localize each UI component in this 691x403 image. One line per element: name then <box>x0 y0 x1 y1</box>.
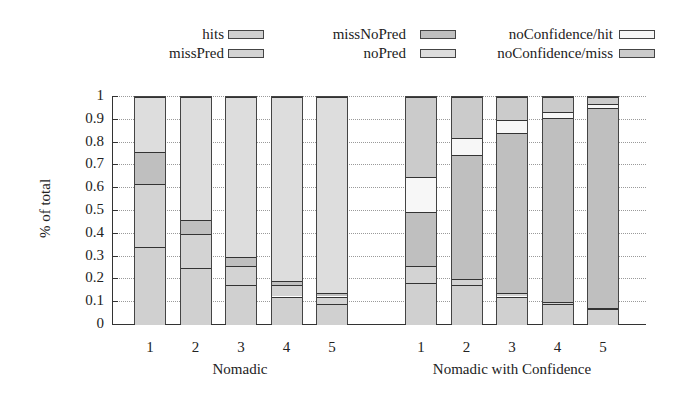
y-axis <box>112 96 113 324</box>
segment-missPred <box>452 279 482 285</box>
segment-missNoPred <box>543 118 573 303</box>
segment-missNoPred <box>317 293 347 296</box>
segment-missNoPred <box>272 281 302 286</box>
segment-noPred <box>226 97 256 257</box>
y-tick-label: 1 <box>74 88 104 103</box>
segment-hits <box>452 285 482 325</box>
segment-noPred <box>317 97 347 293</box>
segment-noConfidence-miss <box>406 97 436 177</box>
stacked-bar-chart: hits missNoPred noConfidence/hit missPre… <box>0 0 691 403</box>
bar-nomadic-confidence-4 <box>542 96 574 324</box>
segment-noConfidence-miss <box>588 97 618 104</box>
segment-hits <box>317 304 347 325</box>
segment-hits <box>272 297 302 326</box>
segment-hits <box>181 268 211 325</box>
y-tick-label: 0 <box>74 316 104 331</box>
legend-swatch-missPred <box>228 49 264 58</box>
segment-missPred <box>181 234 211 268</box>
y-tick-label: 0.3 <box>74 248 104 263</box>
legend-swatch-hits <box>228 30 264 39</box>
segment-missNoPred <box>181 220 211 234</box>
y-axis-title: % of total <box>37 169 54 249</box>
x-tick-label: 4 <box>277 340 297 355</box>
legend-swatch-noConfidence-hit <box>619 30 655 39</box>
legend-label-noPred: noPred <box>364 44 407 62</box>
segment-noPred <box>272 97 302 281</box>
y-tick-label: 0.7 <box>74 156 104 171</box>
segment-hits <box>588 309 618 325</box>
bar-nomadic-2 <box>180 96 212 324</box>
x-tick-label: 2 <box>457 340 477 355</box>
x-tick-label: 1 <box>140 340 160 355</box>
y-tick-label: 0.4 <box>74 225 104 240</box>
bar-nomadic-confidence-3 <box>496 96 528 324</box>
x-tick-label: 1 <box>411 340 431 355</box>
x-tick-label: 5 <box>322 340 342 355</box>
segment-hits <box>135 247 165 325</box>
bar-nomadic-4 <box>271 96 303 324</box>
segment-hits <box>226 285 256 325</box>
y-tick-label: 0.9 <box>74 111 104 126</box>
legend-label-missPred: missPred <box>169 44 224 62</box>
segment-missPred <box>406 266 436 283</box>
segment-missPred <box>543 302 573 304</box>
segment-missPred <box>497 293 527 296</box>
segment-missNoPred <box>135 152 165 184</box>
segment-missPred <box>588 308 618 310</box>
segment-hits <box>543 304 573 325</box>
segment-noConfidence-miss <box>452 97 482 138</box>
legend-swatch-noConfidence-miss <box>619 49 655 58</box>
x-tick-label: 3 <box>231 340 251 355</box>
y-tick-label: 0.5 <box>74 202 104 217</box>
legend-swatch-missNoPred <box>420 30 456 39</box>
segment-hits <box>406 283 436 325</box>
bar-nomadic-5 <box>316 96 348 324</box>
segment-missPred <box>272 285 302 296</box>
segment-missPred <box>135 184 165 248</box>
bar-nomadic-confidence-5 <box>587 96 619 324</box>
bar-nomadic-1 <box>134 96 166 324</box>
segment-noConfidence-hit <box>543 112 573 118</box>
y-tick-label: 0.2 <box>74 270 104 285</box>
segment-hits <box>497 297 527 326</box>
segment-missNoPred <box>452 155 482 279</box>
y-tick-label: 0.8 <box>74 134 104 149</box>
segment-missPred <box>226 266 256 285</box>
group-label-nomadic: Nomadic <box>180 362 300 377</box>
segment-missNoPred <box>588 108 618 308</box>
legend-label-missNoPred: missNoPred <box>333 25 406 43</box>
y-tick-label: 0.6 <box>74 179 104 194</box>
legend-swatch-noPred <box>420 49 456 58</box>
segment-missNoPred <box>497 133 527 293</box>
y-tick-label: 0.1 <box>74 293 104 308</box>
segment-missPred <box>317 297 347 305</box>
segment-noConfidence-hit <box>452 138 482 155</box>
legend-label-hits: hits <box>202 25 224 43</box>
x-tick-label: 5 <box>593 340 613 355</box>
segment-noPred <box>181 97 211 220</box>
segment-missNoPred <box>226 257 256 266</box>
segment-noConfidence-miss <box>497 97 527 120</box>
x-tick-label: 2 <box>186 340 206 355</box>
segment-missNoPred <box>406 212 436 266</box>
x-tick-label: 3 <box>502 340 522 355</box>
segment-noPred <box>135 97 165 152</box>
segment-noConfidence-hit <box>588 104 618 108</box>
bar-nomadic-confidence-2 <box>451 96 483 324</box>
bar-nomadic-confidence-1 <box>405 96 437 324</box>
legend-label-noConfidence-miss: noConfidence/miss <box>497 44 613 62</box>
group-label-nomadic-with-confidence: Nomadic with Confidence <box>412 362 612 377</box>
segment-noConfidence-miss <box>543 97 573 112</box>
segment-noConfidence-hit <box>406 177 436 212</box>
x-tick-label: 4 <box>548 340 568 355</box>
bar-nomadic-3 <box>225 96 257 324</box>
legend-label-noConfidence-hit: noConfidence/hit <box>509 25 613 43</box>
segment-noConfidence-hit <box>497 120 527 134</box>
